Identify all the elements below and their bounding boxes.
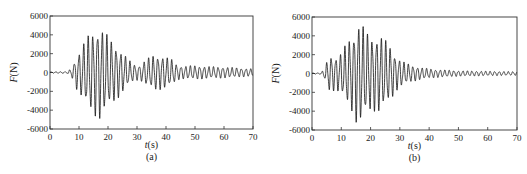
y-tick-label: -6000	[27, 124, 48, 134]
figure-canvas: -6000-4000-20000200040006000010203040506…	[0, 0, 527, 174]
y-tick-label: 4000	[30, 30, 49, 40]
y-tick-label: 0	[44, 68, 49, 78]
y-tick-label: -6000	[289, 125, 310, 135]
y-tick-label: 2000	[292, 50, 311, 60]
x-tick-label: 20	[366, 133, 376, 143]
y-axis-label: F(N)	[270, 64, 282, 85]
y-tick-label: 6000	[30, 11, 49, 21]
panel-label: (a)	[146, 151, 157, 163]
x-tick-label: 50	[191, 132, 201, 142]
x-tick-label: 70	[513, 133, 523, 143]
y-tick-label: -2000	[27, 86, 48, 96]
x-tick-label: 50	[454, 133, 464, 143]
x-axis-label: t(s)	[145, 139, 158, 151]
x-tick-label: 40	[162, 132, 172, 142]
x-tick-label: 60	[220, 132, 230, 142]
y-tick-label: -4000	[289, 106, 310, 116]
x-tick-label: 10	[75, 132, 85, 142]
x-tick-label: 40	[425, 133, 435, 143]
x-tick-label: 0	[310, 133, 315, 143]
force-waveform	[50, 33, 253, 119]
y-tick-label: -2000	[289, 87, 310, 97]
y-tick-label: 6000	[292, 12, 311, 22]
x-tick-label: 30	[133, 132, 143, 142]
force-waveform	[312, 27, 517, 123]
x-tick-label: 70	[249, 132, 259, 142]
panel-label: (b)	[409, 152, 421, 164]
x-tick-label: 60	[483, 133, 493, 143]
x-tick-label: 30	[395, 133, 405, 143]
y-tick-label: 0	[306, 69, 311, 79]
chart-panel-b: -6000-4000-20000200040006000010203040506…	[270, 12, 522, 164]
x-axis-label: t(s)	[408, 140, 421, 152]
y-tick-label: 4000	[292, 31, 311, 41]
x-tick-label: 0	[48, 132, 53, 142]
x-tick-label: 10	[337, 133, 347, 143]
chart-panel-a: -6000-4000-20000200040006000010203040506…	[8, 11, 258, 163]
y-tick-label: 2000	[30, 49, 49, 59]
y-tick-label: -4000	[27, 105, 48, 115]
x-tick-label: 20	[104, 132, 114, 142]
y-axis-label: F(N)	[8, 63, 20, 84]
